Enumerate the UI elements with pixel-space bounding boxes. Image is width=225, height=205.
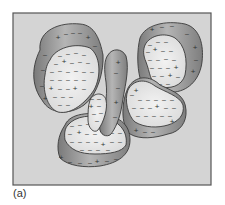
negative-charge-icon: – [148, 41, 152, 48]
negative-charge-icon: – [116, 84, 120, 91]
negative-charge-icon: – [74, 67, 78, 74]
positive-charge-icon: + [59, 153, 64, 162]
negative-charge-icon: – [86, 59, 90, 66]
negative-charge-icon: – [85, 130, 89, 137]
negative-charge-icon: – [160, 72, 164, 79]
negative-charge-icon: – [54, 60, 58, 67]
negative-charge-icon: – [114, 69, 118, 76]
negative-charge-icon: – [176, 73, 180, 80]
negative-charge-icon: – [50, 76, 54, 83]
negative-charge-icon: – [106, 146, 110, 153]
negative-charge-icon: – [118, 129, 122, 136]
negative-charge-icon: – [97, 95, 101, 102]
negative-charge-icon: – [74, 76, 78, 83]
negative-charge-icon: – [58, 67, 62, 74]
negative-charge-icon: – [172, 104, 176, 111]
clay-particles-figure: +–––+––––+–––––+––––––––––––––+––+––––––… [0, 0, 225, 205]
positive-charge-icon: + [101, 140, 106, 149]
negative-charge-icon: – [88, 146, 92, 153]
positive-charge-icon: + [77, 128, 82, 137]
negative-charge-icon: – [66, 50, 70, 57]
negative-charge-icon: – [41, 66, 45, 73]
negative-charge-icon: – [194, 56, 198, 63]
negative-charge-icon: – [132, 104, 136, 111]
negative-charge-icon: – [185, 30, 189, 37]
negative-charge-icon: – [166, 64, 170, 71]
negative-charge-icon: – [162, 96, 166, 103]
negative-charge-icon: – [105, 157, 109, 164]
negative-charge-icon: – [82, 51, 86, 58]
negative-charge-icon: – [86, 138, 90, 145]
negative-charge-icon: – [161, 47, 165, 54]
negative-charge-icon: – [140, 104, 144, 111]
negative-charge-icon: – [166, 80, 170, 87]
negative-charge-icon: – [50, 68, 54, 75]
negative-charge-icon: – [150, 64, 154, 71]
negative-charge-icon: – [78, 58, 82, 65]
negative-charge-icon: – [136, 112, 140, 119]
negative-charge-icon: – [96, 146, 100, 153]
positive-charge-icon: + [56, 33, 61, 42]
negative-charge-icon: – [78, 138, 82, 145]
negative-charge-icon: – [43, 51, 47, 58]
negative-charge-icon: – [93, 42, 97, 49]
positive-charge-icon: + [193, 43, 198, 52]
negative-charge-icon: – [160, 112, 164, 119]
positive-charge-icon: + [95, 157, 100, 166]
negative-charge-icon: – [118, 138, 122, 145]
positive-charge-icon: + [191, 67, 196, 76]
negative-charge-icon: – [164, 55, 168, 62]
positive-charge-icon: + [134, 126, 139, 135]
negative-charge-icon: – [68, 130, 72, 137]
negative-charge-icon: – [172, 56, 176, 63]
negative-charge-icon: – [114, 155, 118, 162]
negative-charge-icon: – [70, 122, 74, 129]
negative-charge-icon: – [169, 47, 173, 54]
negative-charge-icon: – [138, 96, 142, 103]
positive-charge-icon: + [49, 84, 54, 93]
negative-charge-icon: – [82, 85, 86, 92]
positive-charge-icon: + [73, 84, 78, 93]
negative-charge-icon: – [66, 85, 70, 92]
negative-charge-icon: – [82, 76, 86, 83]
negative-charge-icon: – [156, 38, 160, 45]
negative-charge-icon: – [88, 159, 92, 166]
positive-charge-icon: + [62, 57, 67, 66]
negative-charge-icon: – [90, 68, 94, 75]
negative-charge-icon: – [152, 112, 156, 119]
negative-charge-icon: – [78, 121, 82, 128]
negative-charge-icon: – [82, 68, 86, 75]
negative-charge-icon: – [61, 93, 65, 100]
negative-charge-icon: – [146, 48, 150, 55]
negative-charge-icon: – [158, 64, 162, 71]
negative-charge-icon: – [110, 138, 114, 145]
positive-charge-icon: + [150, 25, 155, 34]
positive-charge-icon: + [116, 58, 121, 67]
negative-charge-icon: – [40, 82, 44, 89]
negative-charge-icon: – [70, 138, 74, 145]
negative-charge-icon: – [66, 68, 70, 75]
positive-charge-icon: + [170, 117, 175, 126]
negative-charge-icon: – [152, 72, 156, 79]
positive-charge-icon: + [43, 94, 48, 103]
positive-charge-icon: + [153, 45, 158, 54]
negative-charge-icon: – [170, 22, 174, 29]
negative-charge-icon: – [164, 38, 168, 45]
negative-charge-icon: – [146, 96, 150, 103]
positive-charge-icon: + [114, 98, 119, 107]
negative-charge-icon: – [99, 109, 103, 116]
negative-charge-icon: – [144, 112, 148, 119]
negative-charge-icon: – [78, 29, 82, 36]
negative-charge-icon: – [58, 101, 62, 108]
negative-charge-icon: – [66, 101, 70, 108]
positive-charge-icon: + [134, 86, 139, 95]
negative-charge-icon: – [58, 76, 62, 83]
negative-charge-icon: – [68, 158, 72, 165]
negative-charge-icon: – [143, 128, 147, 135]
positive-charge-icon: + [155, 102, 160, 111]
negative-charge-icon: – [70, 59, 74, 66]
negative-charge-icon: – [53, 93, 57, 100]
negative-charge-icon: – [64, 30, 68, 37]
negative-charge-icon: – [58, 85, 62, 92]
negative-charge-icon: – [170, 96, 174, 103]
